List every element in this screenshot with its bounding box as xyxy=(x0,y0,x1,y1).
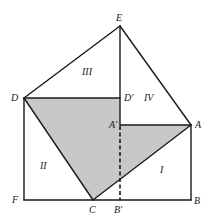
region-label-I: I xyxy=(159,164,164,175)
segment-E-D xyxy=(24,26,120,98)
label-C: C xyxy=(89,204,96,215)
label-A-prime: A′ xyxy=(108,119,118,130)
label-E: E xyxy=(115,12,122,23)
label-A: A xyxy=(194,119,202,130)
segment-E-A xyxy=(120,26,191,125)
region-label-III: III xyxy=(81,66,93,77)
shaded-region xyxy=(24,98,191,200)
label-B: B xyxy=(194,195,200,206)
region-label-II: II xyxy=(39,160,47,171)
region-label-IV: IV xyxy=(143,92,155,103)
label-B-prime: B′ xyxy=(114,204,123,215)
label-D: D xyxy=(10,92,19,103)
label-F: F xyxy=(11,194,19,205)
geometry-diagram: E D D′ A′ A B B′ C F I II III IV xyxy=(0,0,212,222)
label-D-prime: D′ xyxy=(123,92,134,103)
